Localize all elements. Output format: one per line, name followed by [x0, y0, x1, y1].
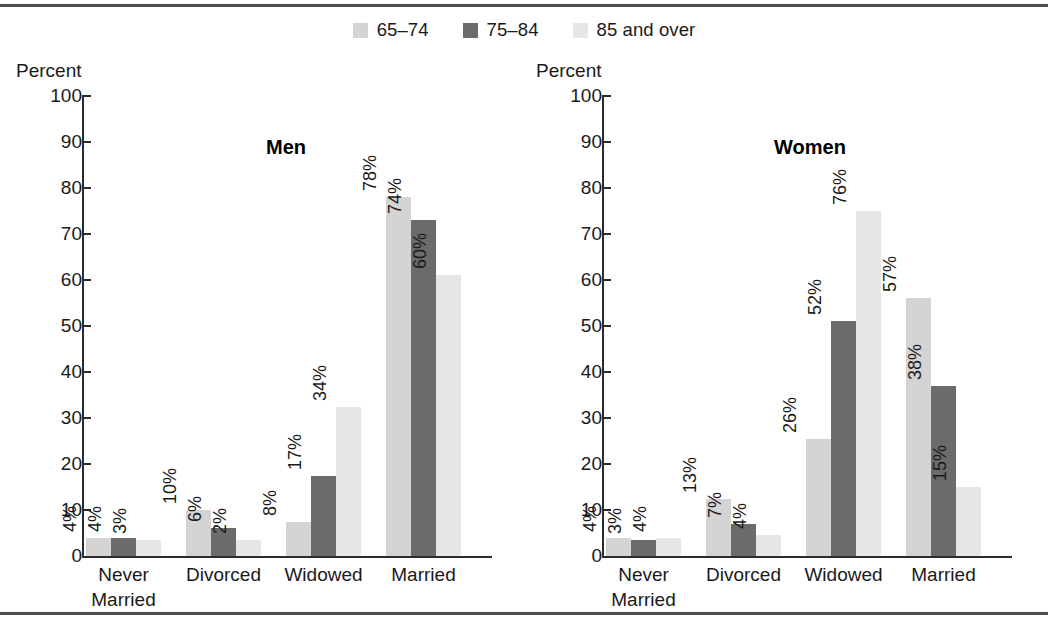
- bar-slot: 13%: [706, 96, 731, 556]
- bar-slot: 4%: [111, 96, 136, 556]
- bar-group: 4%3%4%: [606, 96, 681, 556]
- x-axis-line: [82, 556, 492, 558]
- chart-page: 65–7475–8485 and over PercentMen10090807…: [0, 0, 1048, 623]
- bar-slot: 10%: [186, 96, 211, 556]
- bar-slot: 3%: [136, 96, 161, 556]
- bar-slot: 6%: [211, 96, 236, 556]
- bar-value-label: 4%: [85, 506, 106, 532]
- plot-area: 4%3%4%13%7%4%26%52%76%57%38%15%: [604, 96, 1012, 556]
- y-axis-caption: Percent: [16, 60, 81, 82]
- bar-slot: 2%: [236, 96, 261, 556]
- bar-value-label: 52%: [805, 279, 826, 315]
- bar[interactable]: [111, 538, 136, 556]
- bar-slot: 8%: [286, 96, 311, 556]
- chart-panel-men: PercentMen10090807060504030201004%4%3%10…: [8, 60, 500, 605]
- y-axis-caption: Percent: [536, 60, 601, 82]
- bar-value-label: 15%: [930, 445, 951, 481]
- y-axis-tick-label: 60: [16, 269, 82, 291]
- bar[interactable]: [436, 275, 461, 556]
- bar[interactable]: [806, 439, 831, 556]
- bar[interactable]: [956, 487, 981, 556]
- bar-value-label: 10%: [160, 468, 181, 504]
- bar-slot: 4%: [756, 96, 781, 556]
- bar-slot: 34%: [336, 96, 361, 556]
- bar-group: 4%4%3%: [86, 96, 161, 556]
- x-axis-category-label: Married: [882, 562, 1005, 587]
- legend-swatch-icon: [353, 23, 368, 38]
- bar-value-label: 74%: [385, 178, 406, 214]
- bar-group: 10%6%2%: [186, 96, 261, 556]
- bar-slot: 4%: [86, 96, 111, 556]
- bar[interactable]: [236, 540, 261, 556]
- legend-item-a65_74[interactable]: 65–74: [353, 19, 429, 41]
- y-axis-tick-label: 100: [536, 85, 602, 107]
- bar-value-label: 13%: [680, 456, 701, 492]
- y-axis-tick-label: 90: [536, 131, 602, 153]
- bar-value-label: 4%: [580, 506, 601, 532]
- y-axis-tick-label: 70: [16, 223, 82, 245]
- y-axis-tick-label: 50: [536, 315, 602, 337]
- y-axis-tick-label: 40: [16, 361, 82, 383]
- bar-slot: 7%: [731, 96, 756, 556]
- legend-item-label: 85 and over: [597, 19, 696, 41]
- bar-value-label: 60%: [410, 233, 431, 269]
- bar[interactable]: [606, 538, 631, 556]
- bar-value-label: 4%: [730, 503, 751, 529]
- x-axis-line: [602, 556, 1012, 558]
- legend-swatch-icon: [573, 23, 588, 38]
- y-axis-tick-label: 20: [16, 453, 82, 475]
- bar-value-label: 3%: [605, 508, 626, 534]
- bar-value-label: 7%: [705, 492, 726, 518]
- bar-slot: 52%: [831, 96, 856, 556]
- bar[interactable]: [136, 540, 161, 556]
- y-axis-tick-label: 60: [536, 269, 602, 291]
- bar-slot: 26%: [806, 96, 831, 556]
- bar-slot: 38%: [931, 96, 956, 556]
- bar-value-label: 4%: [630, 506, 651, 532]
- bar-value-label: 34%: [310, 364, 331, 400]
- bar[interactable]: [86, 538, 111, 556]
- bar-value-label: 8%: [260, 489, 281, 515]
- bar[interactable]: [906, 298, 931, 556]
- chart-legend: 65–7475–8485 and over: [0, 19, 1048, 41]
- y-axis-tick-label: 40: [536, 361, 602, 383]
- bar-value-label: 2%: [210, 508, 231, 534]
- y-axis-tick-label: 100: [16, 85, 82, 107]
- bar-value-label: 4%: [60, 506, 81, 532]
- bar-slot: 60%: [436, 96, 461, 556]
- bar-group: 8%17%34%: [286, 96, 361, 556]
- bar-group: 13%7%4%: [706, 96, 781, 556]
- y-axis-tick-label: 70: [536, 223, 602, 245]
- x-axis-category-label: Married: [362, 562, 485, 587]
- bar[interactable]: [411, 220, 436, 556]
- bar[interactable]: [286, 522, 311, 557]
- y-axis-tick-label: 50: [16, 315, 82, 337]
- bar-group: 57%38%15%: [906, 96, 981, 556]
- bar-value-label: 3%: [110, 508, 131, 534]
- x-axis-category-labels: Never MarriedDivorcedWidowedMarried: [84, 562, 492, 622]
- legend-item-label: 75–84: [487, 19, 539, 41]
- x-axis-category-labels: Never MarriedDivorcedWidowedMarried: [604, 562, 1012, 622]
- bar[interactable]: [631, 540, 656, 556]
- bar[interactable]: [386, 197, 411, 556]
- bar-group: 26%52%76%: [806, 96, 881, 556]
- y-axis-tick-label: 30: [16, 407, 82, 429]
- bar-slot: 74%: [411, 96, 436, 556]
- bar-slot: 4%: [606, 96, 631, 556]
- bar[interactable]: [856, 211, 881, 556]
- bar-value-label: 17%: [285, 433, 306, 469]
- legend-item-a75_84[interactable]: 75–84: [463, 19, 539, 41]
- bar[interactable]: [831, 321, 856, 556]
- bar-value-label: 57%: [880, 256, 901, 292]
- bar[interactable]: [311, 476, 336, 557]
- bar[interactable]: [756, 535, 781, 556]
- y-axis-tick-label: 80: [536, 177, 602, 199]
- y-axis-tick-label: 20: [536, 453, 602, 475]
- bar[interactable]: [336, 407, 361, 557]
- bar-slot: 78%: [386, 96, 411, 556]
- legend-item-a85plus[interactable]: 85 and over: [573, 19, 696, 41]
- plot-area: 4%4%3%10%6%2%8%17%34%78%74%60%: [84, 96, 492, 556]
- bar-slot: 76%: [856, 96, 881, 556]
- bar[interactable]: [656, 538, 681, 556]
- chart-panel-women: PercentWomen10090807060504030201004%3%4%…: [528, 60, 1020, 605]
